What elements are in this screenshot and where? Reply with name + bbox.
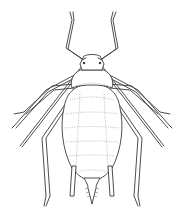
- antenna-right: [98, 12, 118, 62]
- eye-right: [99, 62, 101, 64]
- cauda: [84, 178, 100, 204]
- aphid-drawing: [0, 0, 184, 221]
- eye-left: [83, 62, 85, 64]
- thorax: [71, 70, 112, 88]
- abdomen: [62, 84, 122, 180]
- aphid-illustration: [0, 0, 184, 221]
- siphunculus-left: [70, 166, 76, 196]
- siphunculus-right: [108, 166, 114, 196]
- antenna-left: [66, 12, 86, 62]
